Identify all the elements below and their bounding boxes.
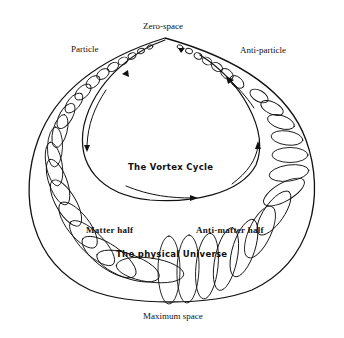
flow-arc-left	[87, 90, 106, 145]
arrowhead-bottom	[190, 195, 198, 201]
vortex-cycle-diagram: Zero-space Particle Anti-particle The Vo…	[0, 0, 344, 338]
arrowhead-top-left	[122, 70, 129, 77]
label-vortex-cycle: The Vortex Cycle	[128, 162, 213, 172]
label-anti-matter-half: Anti-matter half	[196, 225, 264, 235]
label-zero-space: Zero-space	[143, 21, 183, 31]
label-maximum-space: Maximum space	[143, 311, 203, 321]
arrowhead-left	[84, 145, 90, 152]
label-particle: Particle	[71, 44, 99, 54]
label-anti-particle: Anti-particle	[240, 45, 286, 55]
label-matter-half: Matter half	[86, 225, 133, 235]
flow-arc-bottom	[126, 186, 192, 198]
label-physical-universe: The physical Universe	[116, 249, 227, 259]
